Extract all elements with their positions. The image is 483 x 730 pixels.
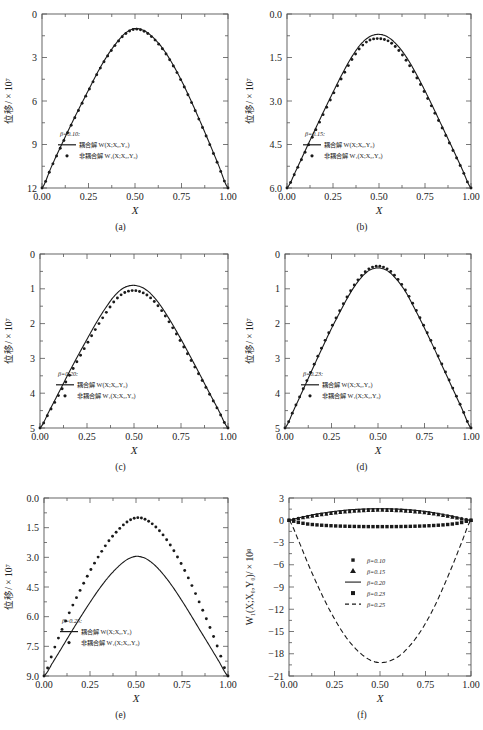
series-marker <box>168 320 171 323</box>
series-line-WXXY <box>40 285 228 428</box>
series-marker <box>117 40 120 43</box>
x-tick-label: 0.25 <box>324 191 342 202</box>
series-marker <box>190 584 193 587</box>
beta-label: β=0.23: <box>302 370 323 377</box>
series-marker <box>444 134 447 137</box>
series-marker <box>395 525 398 528</box>
y-tick-label: 3 <box>275 353 280 364</box>
series-marker <box>197 118 200 121</box>
series-marker <box>112 301 115 304</box>
series-marker <box>329 99 332 102</box>
series-marker <box>286 187 289 190</box>
series-marker <box>313 363 316 366</box>
series-marker <box>311 523 314 526</box>
y-tick-label: 1.5 <box>270 52 283 63</box>
series-marker <box>390 525 393 528</box>
series-marker <box>208 143 211 146</box>
series-marker <box>409 525 412 528</box>
series-marker <box>298 395 301 398</box>
y-tick-label: −3 <box>273 537 284 548</box>
x-axis-label: X <box>132 692 141 704</box>
x-tick-label: 0.75 <box>172 431 190 442</box>
series-marker <box>429 339 432 342</box>
series-marker <box>346 296 349 299</box>
x-tick-label: 0.75 <box>173 191 191 202</box>
series-marker <box>354 53 357 56</box>
series-marker <box>361 44 364 47</box>
panel-caption: (b) <box>241 222 483 232</box>
y-tick-label: −12 <box>268 604 284 615</box>
series-marker <box>430 104 433 107</box>
series-marker <box>408 295 411 298</box>
series-marker <box>149 296 152 299</box>
series-marker <box>198 600 201 603</box>
series-marker <box>61 387 64 390</box>
series-marker <box>423 90 426 93</box>
series-marker <box>379 37 382 40</box>
y-tick-label: 6 <box>32 96 37 107</box>
series-marker <box>462 411 465 414</box>
series-marker <box>157 304 160 307</box>
series-marker <box>43 675 46 678</box>
series-marker <box>462 172 465 175</box>
series-marker <box>289 181 292 184</box>
series-marker <box>470 187 473 190</box>
series-marker <box>90 334 93 337</box>
series-marker <box>201 379 204 382</box>
series-line-=0.20 <box>289 509 471 521</box>
x-tick-label: 0.50 <box>371 679 389 690</box>
legend-coupled: 耦合解 W(X;X₀,Y₀) <box>79 141 130 149</box>
x-tick-label: 0.50 <box>126 191 144 202</box>
series-marker <box>142 291 145 294</box>
series-marker <box>216 645 219 648</box>
x-tick-label: 0.25 <box>323 431 341 442</box>
series-marker <box>135 28 138 31</box>
series-marker <box>122 523 125 526</box>
series-marker <box>418 524 421 527</box>
series-marker <box>151 522 154 525</box>
y-tick-label: 6.0 <box>27 611 40 622</box>
series-marker <box>128 30 131 33</box>
series-marker <box>44 180 47 183</box>
series-marker <box>405 59 408 62</box>
x-tick-label: 1.00 <box>219 431 237 442</box>
series-marker <box>79 589 82 592</box>
series-marker <box>315 523 318 526</box>
series-marker <box>84 95 87 98</box>
series-marker <box>190 101 193 104</box>
series-marker <box>223 180 226 183</box>
series-marker <box>121 35 124 38</box>
series-marker <box>164 315 167 318</box>
series-marker <box>291 412 294 415</box>
series-marker <box>93 562 96 565</box>
series-marker <box>386 267 389 270</box>
series-marker <box>367 525 370 528</box>
series-marker <box>466 420 469 423</box>
x-tick-label: 0.75 <box>416 431 434 442</box>
series-marker <box>81 102 84 105</box>
series-marker <box>182 346 185 349</box>
chart-b: 0.000.250.500.751.000.01.53.04.56.0位移/ ×… <box>241 0 483 240</box>
series-marker <box>154 39 157 42</box>
series-marker <box>205 617 208 620</box>
y-axis-label: W₁(X;X₀,Y₀)/ × 10⁸ <box>245 549 256 625</box>
series-marker <box>338 309 341 312</box>
series-marker <box>175 333 178 336</box>
series-marker <box>375 265 378 268</box>
series-marker <box>334 524 337 527</box>
series-marker <box>419 83 422 86</box>
y-axis-label: 位移/ × 10⁷ <box>244 78 255 124</box>
series-marker <box>339 524 342 527</box>
series-marker <box>340 78 343 81</box>
series-marker <box>39 427 42 430</box>
x-tick-label: 0.25 <box>78 431 96 442</box>
y-tick-label: 5 <box>275 423 280 434</box>
series-marker <box>75 360 78 363</box>
series-marker <box>357 525 360 528</box>
series-marker <box>378 265 381 268</box>
series-marker <box>358 48 361 51</box>
series-marker <box>325 106 328 109</box>
series-marker <box>446 523 449 526</box>
beta-label: β=0.25: <box>61 617 82 624</box>
series-marker <box>297 521 300 524</box>
